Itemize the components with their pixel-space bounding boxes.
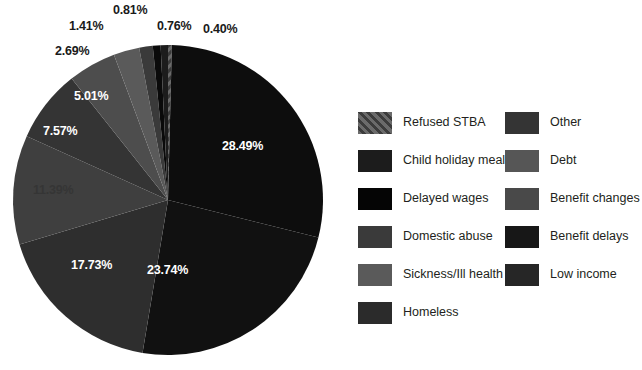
legend-item[interactable]: Domestic abuse (358, 218, 508, 256)
legend-label: Domestic abuse (403, 230, 493, 244)
legend-label: Child holiday meals (403, 154, 511, 168)
slice-label-benefit-changes: 17.73% (71, 258, 112, 272)
slice-label-benefit-delays: 23.74% (147, 263, 188, 277)
legend-item[interactable]: Delayed wages (358, 180, 508, 218)
legend-swatch-solid (358, 188, 392, 210)
legend-item[interactable]: Debt (505, 142, 642, 180)
legend-swatch-solid (505, 112, 539, 134)
legend-item[interactable]: Benefit delays (505, 218, 642, 256)
legend-label: Other (550, 116, 581, 130)
legend-swatch-solid (358, 150, 392, 172)
legend-swatch-solid (505, 150, 539, 172)
legend-label: Benefit delays (550, 230, 629, 244)
legend-label: Homeless (403, 306, 459, 320)
slice-label-low-income: 28.49% (222, 139, 263, 153)
legend-swatch-solid (358, 264, 392, 286)
legend-item[interactable]: Other (505, 104, 642, 142)
legend-item[interactable]: Refused STBA (358, 104, 508, 142)
legend-swatch-solid (505, 226, 539, 248)
slice-label-domestic-abuse: 1.41% (69, 19, 103, 33)
legend-label: Low income (550, 268, 617, 282)
slice-label-homeless: 5.01% (74, 89, 108, 103)
legend-item[interactable]: Sickness/Ill health (358, 256, 508, 294)
legend-label: Benefit changes (550, 192, 640, 206)
chart-legend: Refused STBAChild holiday mealsDelayed w… (358, 104, 642, 334)
legend-item[interactable]: Benefit changes (505, 180, 642, 218)
legend-swatch-solid (505, 264, 539, 286)
legend-swatch-diagonal-hatch (358, 112, 392, 134)
legend-label: Sickness/Ill health (403, 268, 503, 282)
legend-item[interactable]: Low income (505, 256, 642, 294)
legend-label: Refused STBA (403, 116, 486, 130)
legend-item[interactable]: Child holiday meals (358, 142, 508, 180)
legend-label: Delayed wages (403, 192, 488, 206)
slice-label-debt: 11.39% (33, 183, 74, 197)
pie-slices-group (13, 45, 323, 355)
slice-label-refused-stba: 0.40% (203, 22, 237, 36)
legend-swatch-solid (358, 226, 392, 248)
slice-label-child-holiday-meals: 0.76% (157, 19, 191, 33)
legend-swatch-solid (358, 302, 392, 324)
pie-chart-figure: 0.40% 28.49% 23.74% 17.73% 11.39% 7.57% … (0, 0, 642, 370)
slice-label-sickness: 2.69% (55, 44, 89, 58)
slice-label-other: 7.57% (43, 124, 77, 138)
legend-swatch-solid (505, 188, 539, 210)
legend-column-left: Refused STBAChild holiday mealsDelayed w… (358, 104, 508, 332)
slice-label-delayed-wages: 0.81% (113, 3, 147, 17)
legend-item[interactable]: Homeless (358, 294, 508, 332)
legend-column-right: OtherDebtBenefit changesBenefit delaysLo… (505, 104, 642, 294)
legend-label: Debt (550, 154, 576, 168)
